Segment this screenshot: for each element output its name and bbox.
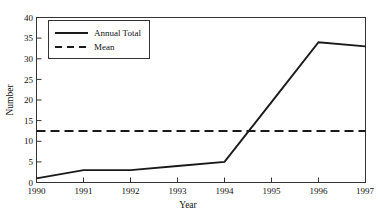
x-axis-title: Year [179,200,197,210]
x-tick-label: 1997 [356,186,375,196]
y-tick-label: 10 [24,136,34,146]
x-tick-label: 1996 [310,186,329,196]
y-tick-label: 40 [24,13,34,23]
x-tick-label: 1993 [169,186,188,196]
x-axis-ticks [37,178,366,183]
chart-container: 0 5 10 15 20 25 30 35 40 1990 1991 1992 [0,0,378,215]
x-tick-label: 1992 [122,186,140,196]
legend-label-mean: Mean [94,42,115,52]
y-axis-title: Number [5,84,15,116]
x-tick-label: 1994 [216,186,235,196]
series-annual-total [37,42,366,178]
y-axis-ticks [37,18,42,183]
y-tick-label: 20 [24,95,34,105]
y-tick-label: 35 [24,33,34,43]
legend-box [49,21,150,59]
y-axis-tick-labels: 0 5 10 15 20 25 30 35 40 [24,13,34,188]
x-axis-tick-labels: 1990 1991 1992 1993 1994 1995 1996 1997 [28,186,375,196]
y-tick-label: 25 [24,75,34,85]
legend-label-annual-total: Annual Total [94,28,141,38]
y-tick-label: 30 [24,54,34,64]
x-tick-label: 1991 [75,186,93,196]
x-tick-label: 1990 [28,186,47,196]
line-chart: 0 5 10 15 20 25 30 35 40 1990 1991 1992 [0,0,378,215]
chart-legend: Annual Total Mean [49,21,150,59]
y-tick-label: 5 [29,157,34,167]
y-tick-label: 15 [24,116,34,126]
x-tick-label: 1995 [263,186,282,196]
